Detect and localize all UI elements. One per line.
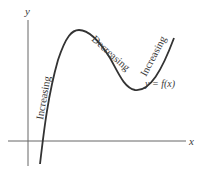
function-graph: y x Increasing Decreasing Increasing y =… (0, 0, 210, 172)
decreasing-label: Decreasing (90, 33, 133, 73)
graph-svg: y x Increasing Decreasing Increasing y =… (0, 0, 210, 172)
increasing-label-right: Increasing (138, 34, 169, 78)
function-label: y = f(x) (144, 78, 176, 90)
x-axis-label: x (188, 135, 194, 147)
y-axis-label: y (24, 5, 30, 17)
